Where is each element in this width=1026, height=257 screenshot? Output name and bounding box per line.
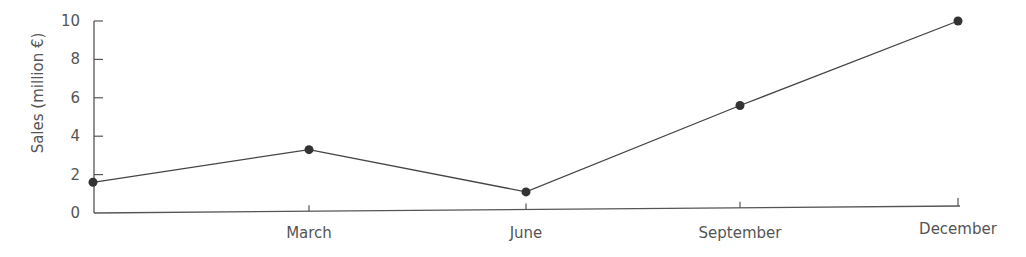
data-point-marker [954, 17, 963, 26]
y-tick-label: 0 [70, 204, 80, 222]
y-axis-title: Sales (million €) [29, 33, 47, 154]
y-axis: 0246810 [61, 12, 103, 222]
x-tick-label: December [919, 220, 998, 238]
y-tick-label: 4 [70, 127, 80, 145]
x-tick-label: March [286, 224, 332, 242]
data-series [89, 17, 963, 197]
data-point-marker [522, 187, 531, 196]
y-tick-label: 10 [61, 12, 80, 30]
y-tick-label: 2 [70, 166, 80, 184]
x-axis: MarchJuneSeptemberDecember [94, 198, 998, 242]
x-tick-label: June [509, 224, 543, 242]
x-tick-label: September [699, 224, 783, 242]
line-chart: Sales (million €) 0246810 MarchJuneSepte… [0, 0, 1026, 257]
y-tick-label: 6 [70, 89, 80, 107]
series-line [93, 21, 958, 192]
x-axis-line [94, 206, 960, 213]
data-point-marker [305, 145, 314, 154]
data-point-marker [89, 178, 98, 187]
y-tick-label: 8 [70, 50, 80, 68]
data-point-marker [736, 101, 745, 110]
